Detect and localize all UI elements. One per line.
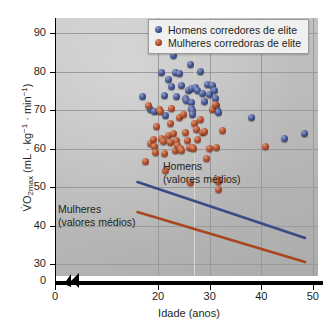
legend-marker-women-icon — [155, 39, 162, 46]
legend-marker-men-icon — [155, 26, 162, 33]
data-point-women — [170, 130, 177, 137]
data-point-men — [176, 70, 183, 77]
data-point-women — [262, 143, 269, 150]
axis-break-icon — [62, 272, 84, 290]
data-point-women — [206, 145, 213, 152]
trend-line — [138, 212, 306, 262]
annotation-women-trend: Mulheres (valores médios) — [58, 203, 136, 229]
data-point-women — [157, 108, 164, 115]
x-axis-line — [55, 281, 323, 285]
y-axis-tick-label: 70 — [34, 103, 46, 115]
y-axis-tick — [50, 72, 56, 73]
data-point-men — [248, 114, 255, 121]
data-point-men — [201, 98, 208, 105]
x-axis-tick-label: 40 — [246, 290, 276, 302]
annotation-women-line2: (valores médios) — [58, 216, 136, 229]
y-axis-tick — [50, 110, 56, 111]
data-point-women — [152, 149, 159, 156]
x-axis-title: Idade (anos) — [55, 307, 323, 319]
data-point-men — [158, 69, 165, 76]
data-point-women — [153, 123, 160, 130]
x-axis-tick-label: 20 — [143, 290, 173, 302]
data-point-men — [281, 135, 288, 142]
y-axis-tick — [50, 187, 56, 188]
data-point-men — [211, 87, 218, 94]
vo2max-age-scatter-figure: 304050607080900 020304050 V̇O2max (mL · … — [0, 0, 335, 329]
legend-label-men: Homens corredores de elite — [168, 24, 297, 36]
data-point-men — [197, 68, 204, 75]
data-point-women — [167, 120, 174, 127]
legend-item-men: Homens corredores de elite — [155, 23, 301, 36]
y-axis-tick-label: 40 — [34, 219, 46, 231]
data-point-men — [301, 130, 308, 137]
data-point-men — [161, 92, 168, 99]
annotation-men-line2: (valores médios) — [163, 173, 241, 186]
y-axis-tick — [50, 264, 56, 265]
y-axis-title: V̇O2max (mL · kg−1 · min−1) — [20, 43, 35, 253]
y-axis-tick-label: 50 — [34, 180, 46, 192]
data-point-women — [201, 128, 208, 135]
y-axis-tick — [50, 33, 56, 34]
data-point-women — [160, 138, 167, 145]
y-axis-tick-label: 60 — [34, 142, 46, 154]
data-point-women — [215, 186, 222, 193]
legend-label-women: Mulheres corredoras de elite — [168, 37, 301, 49]
y-axis-tick-label: 30 — [34, 257, 46, 269]
legend: Homens corredores de elite Mulheres corr… — [148, 19, 309, 54]
annotation-men-line1: Homens — [163, 160, 202, 172]
y-axis-line — [55, 18, 56, 282]
data-point-women — [194, 136, 201, 143]
annotation-women-line1: Mulheres — [58, 203, 101, 215]
y-axis-tick — [50, 149, 56, 150]
y-axis-tick-label: 90 — [34, 26, 46, 38]
y-axis-tick — [50, 226, 56, 227]
plot-area — [55, 18, 318, 276]
data-point-women — [184, 137, 191, 144]
y-axis-origin-label: 0 — [40, 274, 46, 286]
legend-item-women: Mulheres corredoras de elite — [155, 36, 301, 49]
x-axis-tick-label: 50 — [298, 290, 328, 302]
data-point-women — [161, 150, 168, 157]
data-point-women — [142, 158, 149, 165]
data-point-men — [187, 61, 194, 68]
y-axis-tick-label: 80 — [34, 65, 46, 77]
x-axis-tick-label: 30 — [195, 290, 225, 302]
annotation-men-trend: Homens (valores médios) — [163, 160, 241, 186]
x-axis-tick-label: 0 — [40, 290, 70, 302]
data-point-men — [168, 83, 175, 90]
data-point-men — [199, 90, 206, 97]
data-point-women — [182, 129, 189, 136]
y-axis-title-text: V̇O2max (mL · kg−1 · min−1) — [21, 84, 33, 212]
data-point-women — [219, 127, 226, 134]
